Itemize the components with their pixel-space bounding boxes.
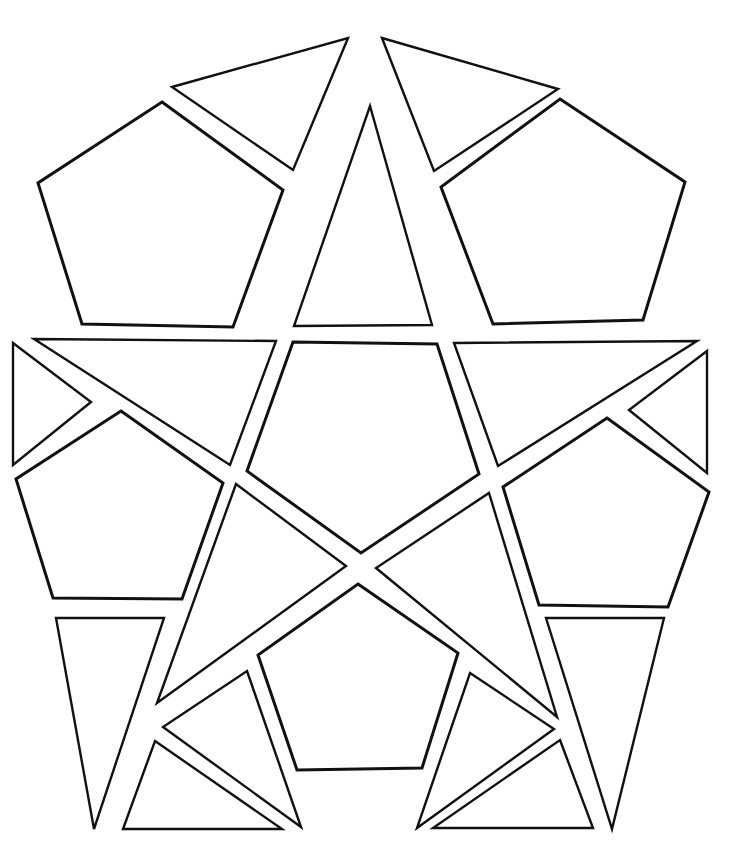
shapes-group xyxy=(13,38,709,829)
star-pattern-diagram xyxy=(0,0,747,865)
top-center-triangle xyxy=(294,106,432,326)
